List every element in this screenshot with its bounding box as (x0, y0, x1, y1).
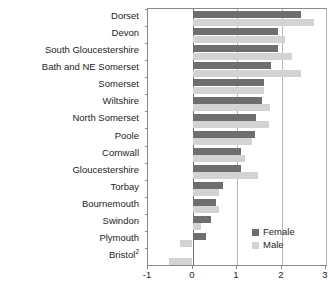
legend-swatch-icon (252, 242, 259, 249)
category-tick (145, 26, 148, 27)
category-label: Swindon (103, 216, 139, 226)
bar-female (193, 11, 301, 18)
bar-female (193, 28, 278, 35)
x-tick-label: 0 (189, 270, 194, 280)
category-tick (145, 163, 148, 164)
category-tick (145, 214, 148, 215)
gridline-3 (326, 9, 327, 265)
chart-legend: FemaleMale (252, 226, 312, 252)
category-tick (145, 9, 148, 10)
category-label: North Somerset (72, 113, 139, 123)
category-label: Plymouth (99, 233, 139, 243)
category-tick (145, 111, 148, 112)
bar-female (193, 216, 212, 223)
x-tick-label: 1 (233, 270, 238, 280)
bar-male (193, 189, 220, 196)
category-tick (145, 43, 148, 44)
bar-male (193, 121, 270, 128)
category-tick (145, 77, 148, 78)
category-label: Bath and NE Somerset (42, 62, 139, 72)
bar-female (193, 182, 223, 189)
category-label: Bristol2 (109, 250, 139, 260)
category-tick (145, 197, 148, 198)
bar-male (193, 70, 301, 77)
category-tick (145, 146, 148, 147)
bar-male (193, 138, 252, 145)
bar-female (193, 233, 206, 240)
bar-male (193, 223, 201, 230)
bar-female (193, 148, 241, 155)
bar-male (193, 36, 286, 43)
bar-male (193, 19, 314, 26)
category-axis-labels: DorsetDevonSouth GloucestershireBath and… (0, 8, 143, 264)
x-axis: -10123 (147, 265, 325, 289)
bar-male (193, 104, 271, 111)
x-tick-label: 2 (278, 270, 283, 280)
bar-male (169, 258, 193, 265)
category-footnote-marker: 2 (135, 248, 139, 255)
category-label: Gloucestershire (72, 165, 139, 175)
category-label: South Gloucestershire (45, 45, 139, 55)
bar-female (193, 131, 255, 138)
bar-male (193, 172, 258, 179)
category-label: Dorset (111, 11, 139, 21)
category-tick (145, 60, 148, 61)
category-label: Wiltshire (103, 96, 139, 106)
bar-female (193, 114, 256, 121)
category-tick (145, 180, 148, 181)
category-label: Torbay (110, 182, 139, 192)
bar-male (193, 206, 220, 213)
bar-female (193, 97, 263, 104)
bar-female (193, 62, 272, 69)
category-label: Cornwall (102, 148, 139, 158)
category-label: Somerset (98, 79, 139, 89)
bar-male (193, 87, 264, 94)
legend-swatch-icon (252, 229, 259, 236)
category-label: Bournemouth (82, 199, 139, 209)
category-tick (145, 248, 148, 249)
category-tick (145, 231, 148, 232)
category-label: Poole (115, 131, 139, 141)
category-tick (145, 94, 148, 95)
bar-female (193, 199, 216, 206)
bar-male (193, 53, 292, 60)
bar-female (193, 79, 264, 86)
bar-female (193, 165, 241, 172)
legend-label: Male (263, 240, 284, 250)
legend-label: Female (263, 227, 295, 237)
legend-item: Male (252, 239, 312, 251)
bar-male (193, 155, 245, 162)
category-label: Devon (112, 28, 139, 38)
x-tick-label: -1 (143, 270, 151, 280)
x-tick-label: 3 (322, 270, 327, 280)
bar-male (180, 240, 192, 247)
category-tick (145, 128, 148, 129)
bar-chart: DorsetDevonSouth GloucestershireBath and… (0, 0, 328, 296)
legend-item: Female (252, 226, 312, 238)
bar-female (193, 45, 278, 52)
